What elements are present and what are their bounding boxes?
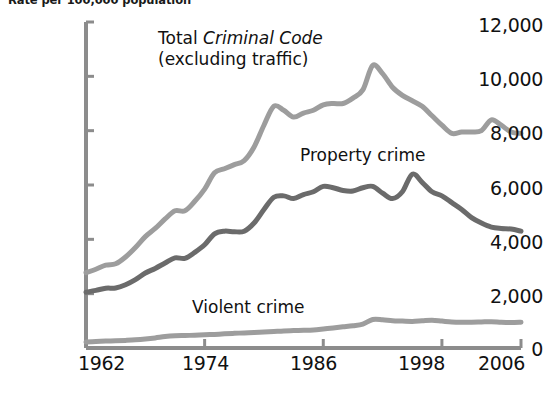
series-label-total-line1: Total Criminal Code (158, 28, 323, 49)
y-tick-6000: 6,000 (467, 177, 543, 199)
total-label-plain: Total (158, 28, 203, 48)
y-tick-2000: 2,000 (467, 285, 543, 307)
series-label-total-criminal-code: Total Criminal Code (excluding traffic) (158, 28, 323, 69)
crime-rate-line-chart: Rate per 100,000 population 12,000 10,00… (0, 0, 543, 399)
series-label-total-line2: (excluding traffic) (158, 49, 323, 70)
y-tick-12000: 12,000 (467, 14, 543, 36)
y-tick-8000: 8,000 (467, 122, 543, 144)
x-tick-1998: 1998 (398, 352, 445, 374)
x-tick-1962: 1962 (78, 352, 125, 374)
y-tick-4000: 4,000 (467, 231, 543, 253)
x-tick-1974: 1974 (182, 352, 229, 374)
x-tick-2006: 2006 (478, 352, 525, 374)
series-label-property-crime: Property crime (300, 145, 425, 166)
y-tick-10000: 10,000 (467, 68, 543, 90)
series-label-violent-crime: Violent crime (192, 297, 304, 318)
series-line-2 (86, 319, 521, 342)
x-tick-1986: 1986 (290, 352, 337, 374)
series-line-0 (86, 65, 521, 273)
total-label-italic: Criminal Code (203, 28, 323, 48)
